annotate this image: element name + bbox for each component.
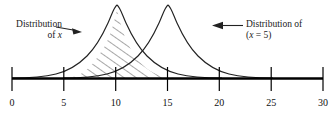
overlap-hatched-region <box>55 0 235 79</box>
tick-label-10: 10 <box>104 97 128 108</box>
label-distribution-x: Distribution of x <box>6 19 62 41</box>
tick-label-15: 15 <box>156 97 180 108</box>
tick-label-20: 20 <box>207 97 231 108</box>
label-left-line1: Distribution <box>6 19 62 30</box>
label-distribution-x-equals-5: Distribution of (x = 5) <box>246 19 302 41</box>
label-left-line2: of x <box>6 30 62 41</box>
label-left-of: of <box>47 30 57 40</box>
label-right-value: = 5) <box>253 30 271 40</box>
label-left-variable: x <box>58 30 62 40</box>
tick-label-30: 30 <box>311 97 335 108</box>
arrow-left-icon <box>212 22 243 29</box>
tick-label-25: 25 <box>259 97 283 108</box>
tick-label-5: 5 <box>52 97 76 108</box>
tick-label-0: 0 <box>0 97 24 108</box>
distribution-overlap-figure: Distribution of x Distribution of (x = 5… <box>0 0 335 117</box>
label-right-line2: (x = 5) <box>246 30 302 41</box>
label-right-line1: Distribution of <box>246 19 302 30</box>
